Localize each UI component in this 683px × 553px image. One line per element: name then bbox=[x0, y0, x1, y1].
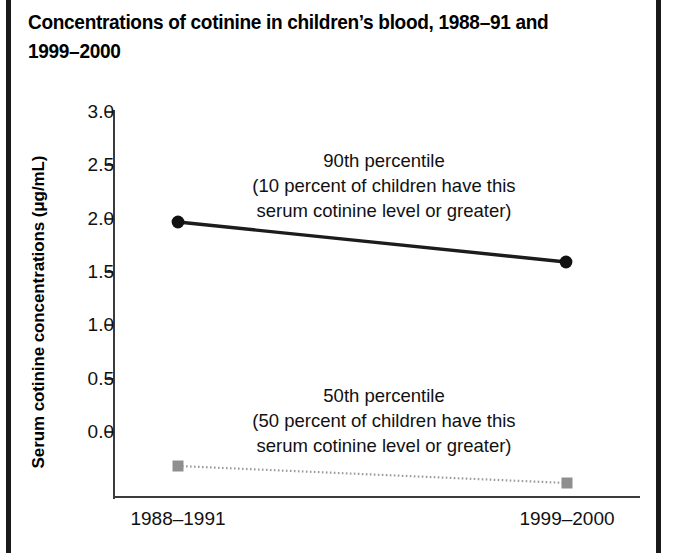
series-layer bbox=[0, 0, 683, 553]
series-50th-percentile bbox=[173, 461, 573, 489]
data-point-marker-50th-1999 bbox=[562, 478, 573, 489]
series-50th-line bbox=[178, 466, 567, 483]
series-90th-percentile bbox=[172, 216, 573, 269]
data-point-marker-50th-1988 bbox=[173, 461, 184, 472]
plot-area: Serum cotinine concentrations (μg/mL) 3.… bbox=[0, 0, 683, 553]
data-point-marker-90th-1988 bbox=[172, 216, 185, 229]
series-90th-line bbox=[178, 222, 566, 262]
figure-container: Concentrations of cotinine in children’s… bbox=[0, 0, 683, 553]
data-point-marker-90th-1999 bbox=[560, 256, 573, 269]
annotation-90th-percentile: 90th percentile (10 percent of children … bbox=[188, 148, 580, 223]
annotation-50th-percentile: 50th percentile (50 percent of children … bbox=[188, 383, 580, 458]
